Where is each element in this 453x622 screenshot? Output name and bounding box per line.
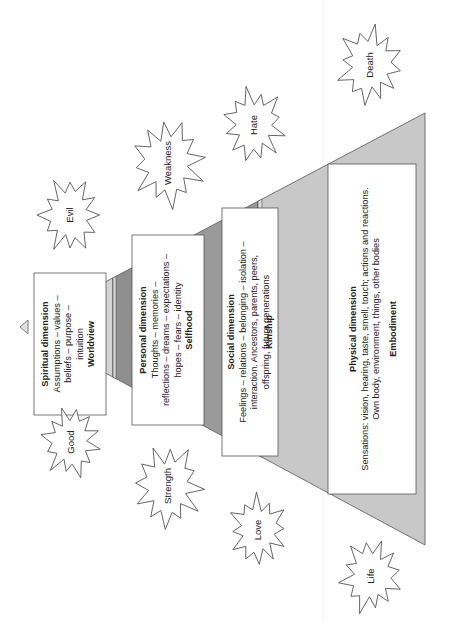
- starburst-label: Love: [252, 520, 263, 541]
- level-keyword: Embodiment: [388, 301, 398, 357]
- level-description-line: Assumptions – values –: [52, 295, 62, 393]
- starburst-weakness: Weakness: [135, 122, 206, 210]
- starburst-label: Strength: [162, 468, 173, 504]
- level-description-line: Feelings – relations – belonging – isola…: [238, 240, 248, 422]
- level-description-line: beliefs – purpose –: [63, 304, 73, 383]
- level-description-line: Own body, environment, things, other bod…: [371, 238, 381, 420]
- level-keyword: Kinship: [264, 315, 274, 349]
- starburst-strength: Strength: [136, 448, 205, 529]
- level-description-line: Sensations: vision, hearing, taste, smel…: [360, 187, 370, 470]
- starburst-death: Death: [338, 24, 401, 106]
- band-divider: [113, 276, 116, 378]
- starburst-hate: Hate: [224, 86, 285, 160]
- starburst-label: Hate: [248, 115, 259, 135]
- level-title: Physical dimension: [348, 286, 358, 372]
- level-description-line: interaction. Ancestors, parents, peers,: [249, 255, 259, 409]
- starburst-label: Evil: [64, 207, 75, 222]
- box-social: Social dimensionFeelings – relations – b…: [222, 208, 278, 456]
- level-title: Spiritual dimension: [40, 301, 50, 387]
- starburst-label: Life: [365, 568, 376, 583]
- starburst-love: Love: [231, 492, 285, 564]
- level-description-line: reflections – dreams – expectations –: [161, 253, 171, 406]
- starburst-label: Weakness: [162, 141, 173, 185]
- level-description-line: hopes – fears – identity: [173, 282, 183, 377]
- level-description-line: intuition: [75, 328, 85, 360]
- starburst-good: Good: [41, 408, 100, 478]
- level-keyword: Selfhood: [184, 310, 194, 349]
- pyramid-apex: [20, 320, 28, 334]
- starburst-life: Life: [339, 541, 401, 614]
- pyramid-diagram: Spiritual dimensionAssumptions – values …: [0, 0, 453, 622]
- starburst-label: Good: [65, 430, 76, 453]
- starburst-evil: Evil: [37, 181, 100, 250]
- starburst-label: Death: [364, 52, 375, 77]
- level-keyword: Worldview: [86, 320, 96, 367]
- box-physical: Physical dimensionSensations: vision, he…: [328, 164, 416, 494]
- box-personal: Personal dimensionThoughts – memories –r…: [132, 235, 204, 425]
- level-description-line: Thoughts – memories –: [150, 281, 160, 378]
- level-title: Personal dimension: [138, 286, 148, 374]
- box-spiritual: Spiritual dimensionAssumptions – values …: [34, 273, 106, 415]
- level-title: Social dimension: [226, 294, 236, 370]
